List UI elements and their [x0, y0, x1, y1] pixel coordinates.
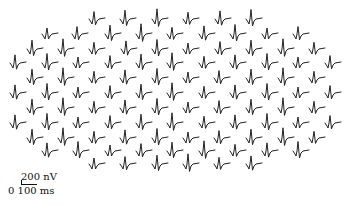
amplitude-scale-label: 200 nV: [21, 172, 57, 182]
waveform-trace: [89, 12, 105, 25]
waveform-trace: [89, 42, 105, 54]
waveform-trace: [152, 9, 168, 27]
waveform-trace: [215, 42, 231, 55]
waveform-trace: [167, 27, 183, 39]
waveform-trace: [214, 71, 230, 84]
waveform-trace: [58, 68, 74, 86]
waveform-trace: [246, 99, 262, 114]
waveform-trace: [136, 24, 152, 42]
waveform-trace: [293, 57, 309, 68]
waveform-trace: [42, 28, 58, 39]
waveform-trace: [199, 86, 215, 98]
waveform-trace: [293, 142, 309, 159]
waveform-trace: [246, 10, 262, 27]
waveform-trace: [73, 57, 89, 68]
waveform-trace: [214, 101, 230, 114]
waveform-trace: [105, 86, 121, 99]
waveform-trace: [183, 102, 199, 113]
waveform-trace: [120, 157, 136, 170]
waveform-trace: [58, 39, 74, 57]
waveform-trace: [58, 98, 74, 116]
waveform-trace: [309, 71, 325, 83]
waveform-trace: [278, 39, 294, 57]
waveform-trace: [27, 69, 43, 84]
waveform-trace: [199, 141, 215, 159]
waveform-trace: [183, 72, 199, 83]
waveform-trace: [27, 40, 43, 55]
waveform-trace: [183, 43, 199, 54]
waveform-trace: [325, 86, 341, 99]
waveform-trace: [73, 87, 89, 98]
waveform-trace: [262, 114, 278, 131]
waveform-trace: [42, 143, 58, 157]
waveform-trace: [72, 27, 88, 40]
waveform-trace: [105, 145, 121, 156]
waveform-trace: [278, 128, 294, 146]
waveform-trace: [214, 157, 230, 169]
waveform-trace: [309, 131, 325, 143]
waveform-trace: [152, 129, 168, 146]
waveform-trace: [230, 25, 246, 42]
waveform-trace: [152, 40, 168, 57]
waveform-trace: [309, 42, 325, 54]
waveform-trace: [89, 131, 105, 143]
waveform-trace: [230, 115, 246, 129]
waveform-trace: [230, 55, 246, 69]
waveform-trace: [120, 100, 136, 114]
waveform-trace: [309, 101, 325, 113]
waveform-trace: [214, 131, 230, 144]
waveform-trace: [136, 84, 152, 99]
waveform-trace: [121, 41, 137, 55]
waveform-trace: [105, 25, 121, 40]
waveform-trace: [42, 84, 58, 101]
waveform-trace: [120, 70, 136, 84]
waveform-trace: [136, 114, 152, 129]
waveform-trace: [246, 156, 262, 170]
waveform-trace: [105, 116, 121, 129]
waveform-trace: [73, 142, 89, 159]
waveform-trace: [136, 144, 152, 157]
waveform-trace: [120, 10, 136, 25]
waveform-trace: [27, 99, 43, 114]
time-scale-label: 0 100 ms: [8, 186, 54, 196]
waveform-trace: [152, 99, 168, 116]
waveform-trace: [183, 12, 199, 24]
waveform-trace: [262, 28, 278, 39]
waveform-trace: [215, 11, 231, 25]
waveform-trace: [89, 101, 105, 113]
waveform-trace: [199, 26, 215, 40]
waveform-trace: [120, 130, 136, 144]
waveform-trace: [230, 85, 246, 99]
waveform-trace: [199, 116, 215, 128]
waveform-trace: [262, 54, 278, 71]
waveform-trace: [27, 129, 43, 144]
waveform-trace: [42, 114, 58, 131]
waveform-trace: [167, 83, 183, 101]
waveform-trace: [167, 53, 183, 71]
waveform-trace: [325, 56, 341, 69]
waveform-trace: [246, 129, 262, 144]
waveform-trace: [293, 87, 309, 98]
waveform-trace: [278, 98, 294, 116]
waveform-trace: [10, 85, 26, 99]
waveform-trace: [136, 54, 152, 69]
waveform-trace: [167, 142, 183, 157]
waveform-trace: [246, 69, 262, 84]
waveform-trace: [10, 115, 26, 129]
waveform-trace: [230, 144, 246, 156]
waveform-trace: [278, 68, 294, 86]
waveform-trace: [183, 154, 199, 172]
waveform-trace: [152, 155, 168, 170]
waveform-trace: [73, 117, 89, 128]
waveform-trace: [42, 54, 58, 71]
waveform-trace: [167, 113, 183, 131]
waveform-trace: [58, 128, 74, 146]
waveform-trace: [262, 143, 278, 157]
waveform-trace: [183, 132, 199, 143]
waveform-trace: [10, 55, 26, 69]
waveform-trace: [105, 56, 121, 69]
waveform-trace: [325, 116, 341, 129]
waveform-trace: [199, 56, 215, 68]
waveform-trace: [293, 27, 309, 40]
waveform-trace: [262, 84, 278, 101]
